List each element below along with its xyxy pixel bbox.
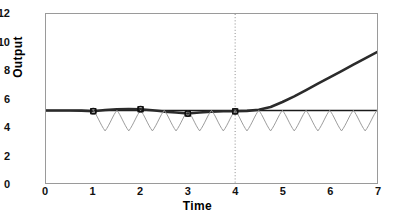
series-response-output xyxy=(46,52,377,114)
xtick-label-7: 7 xyxy=(363,186,393,197)
xtick-label-2: 2 xyxy=(125,186,155,197)
plot-area xyxy=(45,13,378,184)
x-axis-title: Time xyxy=(0,199,395,213)
ytick-label-8: 8 xyxy=(0,65,10,76)
xtick-label-3: 3 xyxy=(173,186,203,197)
ytick-label-12: 12 xyxy=(0,8,10,19)
ytick-label-4: 4 xyxy=(0,122,10,133)
xtick-label-5: 5 xyxy=(268,186,298,197)
xtick-label-1: 1 xyxy=(78,186,108,197)
plot-canvas xyxy=(46,14,377,183)
y-axis-title: Output xyxy=(11,7,25,107)
xtick-label-0: 0 xyxy=(30,186,60,197)
xtick-label-6: 6 xyxy=(315,186,345,197)
ytick-label-2: 2 xyxy=(0,150,10,161)
ytick-label-10: 10 xyxy=(0,36,10,47)
chart-figure: 0 2 4 6 8 10 12 0 1 2 3 4 5 6 7 Time Out… xyxy=(0,0,395,217)
ytick-label-0: 0 xyxy=(0,179,10,190)
ytick-label-6: 6 xyxy=(0,93,10,104)
xtick-label-4: 4 xyxy=(220,186,250,197)
